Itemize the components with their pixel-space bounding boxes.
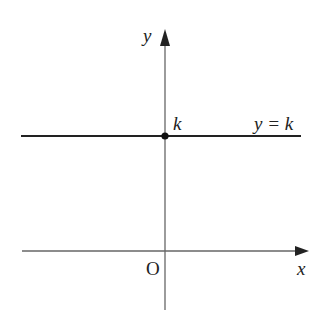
intercept-label: k (173, 114, 181, 133)
y-axis-arrow-icon (160, 29, 170, 46)
y-axis-label: y (143, 26, 151, 45)
equation-label: y = k (254, 114, 293, 133)
x-axis-arrow-icon (295, 246, 309, 256)
x-axis-label: x (297, 259, 305, 278)
diagram-canvas: y k y = k O x (0, 0, 326, 325)
origin-label: O (146, 259, 160, 278)
graph-svg (0, 0, 326, 325)
intercept-point (161, 132, 168, 139)
